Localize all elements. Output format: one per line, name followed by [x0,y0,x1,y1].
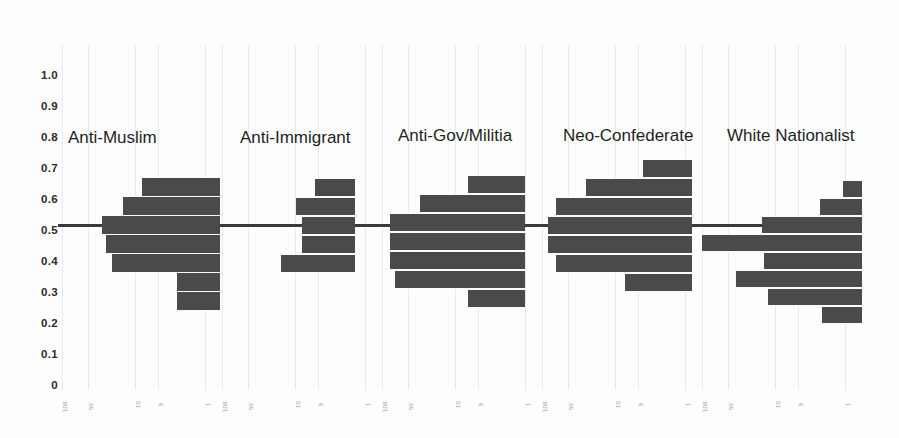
group-label-anti-muslim: Anti-Muslim [68,128,157,148]
y-tick-0-3: 0.3 [12,286,58,298]
x-tick-label: 100 [702,401,708,412]
y-tick-1-0: 1.0 [12,69,58,81]
x-tick-label: 10 [135,401,141,408]
x-tick-label: 1 [365,402,371,406]
x-tick-label: 10 [775,401,781,408]
bar [296,197,355,216]
bar [702,234,862,252]
bar [843,180,862,198]
x-tick-label: 50 [408,403,414,410]
x-tick-label: 5 [638,402,644,406]
x-tick-label: 100 [542,401,548,412]
x-tick-label: 50 [568,403,574,410]
bar [102,215,220,235]
bar [281,254,355,273]
bar [556,254,692,273]
x-tick-label: 5 [478,402,484,406]
bar [625,273,692,292]
bar [768,288,862,306]
bar [142,177,220,197]
bar [112,253,220,273]
x-tick-label: 5 [318,402,324,406]
bar [736,270,862,288]
bar [820,198,862,216]
gridline [62,45,63,390]
bar [106,234,220,254]
bar [586,178,692,197]
x-tick-label: 50 [728,403,734,410]
bar [390,251,525,270]
gridline [542,45,543,390]
gridline [365,45,366,390]
x-tick-label: 10 [295,401,301,408]
bar [123,196,220,216]
x-tick-label: 5 [798,402,804,406]
plot-area: 1.0 0.9 0.8 0.7 0.6 0.5 0.4 0.3 0.2 0.1 … [0,0,899,438]
bar [177,291,220,311]
bar [390,232,525,251]
y-tick-0-5: 0.5 [12,224,58,236]
y-tick-0-6: 0.6 [12,193,58,205]
group-label-anti-gov-militia: Anti-Gov/Militia [398,126,512,146]
group-label-anti-immigrant: Anti-Immigrant [240,128,351,148]
x-tick-label: 1 [845,402,851,406]
bar [468,175,525,194]
gridline [295,45,296,390]
bar [822,306,862,324]
chart-container: 1.0 0.9 0.8 0.7 0.6 0.5 0.4 0.3 0.2 0.1 … [0,0,899,438]
gridline [222,45,223,390]
x-tick-label: 100 [222,401,228,412]
bar [302,216,355,235]
bar [556,197,692,216]
bar [548,216,692,235]
group-label-white-nationalist: White Nationalist [727,126,855,146]
bar [468,289,525,308]
x-tick-label: 10 [455,401,461,408]
bar [302,235,355,254]
x-tick-label: 50 [88,403,94,410]
bar [548,235,692,254]
bar [643,159,692,178]
y-tick-0-8: 0.8 [12,131,58,143]
gridline [88,45,89,390]
gridline [382,45,383,390]
bar [764,252,862,270]
y-tick-0-4: 0.4 [12,255,58,267]
x-tick-label: 100 [62,401,68,412]
y-tick-0-2: 0.2 [12,317,58,329]
gridline [728,45,729,390]
y-tick-0-7: 0.7 [12,162,58,174]
bar [177,272,220,292]
y-tick-0-9: 0.9 [12,100,58,112]
bar [390,213,525,232]
group-label-neo-confederate: Neo-Confederate [563,126,693,146]
x-tick-label: 10 [615,401,621,408]
bar [420,194,525,213]
bar [762,216,862,234]
y-axis: 1.0 0.9 0.8 0.7 0.6 0.5 0.4 0.3 0.2 0.1 … [10,0,58,438]
x-tick-label: 1 [525,402,531,406]
bar [315,178,355,197]
x-tick-label: 5 [158,402,164,406]
x-tick-label: 1 [685,402,691,406]
gridline [702,45,703,390]
y-tick-0-1: 0.1 [12,348,58,360]
bar [395,270,525,289]
gridline [248,45,249,390]
x-tick-label: 100 [382,401,388,412]
x-tick-label: 50 [248,403,254,410]
x-tick-label: 1 [205,402,211,406]
y-tick-0: 0 [12,379,58,391]
gridline [525,45,526,390]
